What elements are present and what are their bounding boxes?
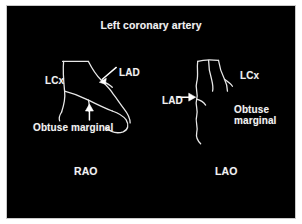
lao-lcx-label: LCx [240, 70, 259, 81]
lao-view-label: LAO [215, 166, 237, 178]
rao-view-label: RAO [74, 166, 98, 178]
figure-canvas: Left coronary artery LCx LAD Obtuse marg… [7, 6, 295, 218]
lao-lad-diagonal-branch [197, 99, 206, 105]
rao-lcx-branch [59, 112, 61, 121]
annotation-arrows [85, 67, 195, 120]
lao-lcx-vessel [219, 60, 228, 91]
rao-lad-arrow [99, 67, 116, 84]
rao-lad-label: LAD [119, 67, 140, 78]
lao-obtuse-marginal-line2: marginal [234, 115, 276, 126]
rao-lcx-label: LCx [45, 75, 64, 86]
lao-vessel-tree [196, 60, 232, 144]
lao-obtuse-marginal-line1: Obtuse [234, 104, 269, 115]
lao-lad-label: LAD [162, 95, 183, 106]
figure-title: Left coronary artery [7, 20, 295, 32]
figure-frame: Left coronary artery LCx LAD Obtuse marg… [6, 5, 296, 219]
rao-lcx-vessel [62, 61, 65, 112]
lao-obtuse-marginal-label: Obtusemarginal [234, 104, 276, 126]
rao-obtuse-marginal-arrow [85, 104, 93, 120]
lao-lad-vessel [196, 61, 201, 143]
coronary-artery-figure: Left coronary artery LCx LAD Obtuse marg… [0, 0, 302, 224]
rao-obtuse-marginal-label: Obtuse marginal [33, 122, 113, 133]
lao-lcx-intermediate-branch [209, 60, 213, 91]
